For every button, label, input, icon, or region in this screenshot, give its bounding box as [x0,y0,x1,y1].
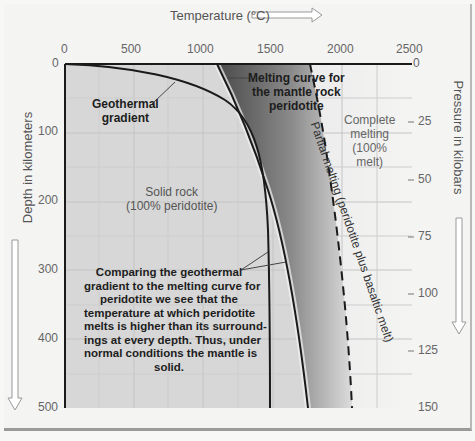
y2-tick: 25 [418,114,431,128]
y2-tick: 125 [418,343,438,357]
x-tick: 500 [121,42,141,56]
geotherm-label: Geothermal gradient [92,97,159,125]
x-tick: 1500 [257,42,284,56]
y2-tick: 100 [418,286,438,300]
comparison-note: Comparing the geothermal gradient to the… [84,266,254,374]
y-tick: 100 [38,124,58,138]
y-tick: 300 [38,262,58,276]
y-tick: 200 [38,193,58,207]
x-tick: 1000 [187,42,214,56]
x-tick: 2500 [396,42,423,56]
y2-tick: 150 [418,400,438,414]
y2-tick: 75 [418,229,431,243]
x-axis-title: Temperature (°C) [170,8,270,23]
x-tick: 2000 [327,42,354,56]
solid-rock-label: Solid rock (100% peridotite) [126,185,217,213]
y2-tick: 0 [413,56,420,70]
y-axis-title: Depth in kilometers [20,103,35,233]
y-tick: 400 [38,331,58,345]
y2-tick: 50 [418,172,431,186]
y-tick: 0 [52,56,59,70]
complete-melting-label: Complete melting (100% melt) [344,113,395,169]
y-tick: 500 [38,400,58,414]
x-tick: 0 [61,42,68,56]
y2-axis-title: Pressure in kilobars [451,73,466,203]
melting-curve-label: Melting curve for the mantle rock perido… [248,71,345,113]
chart-plot [0,0,475,441]
